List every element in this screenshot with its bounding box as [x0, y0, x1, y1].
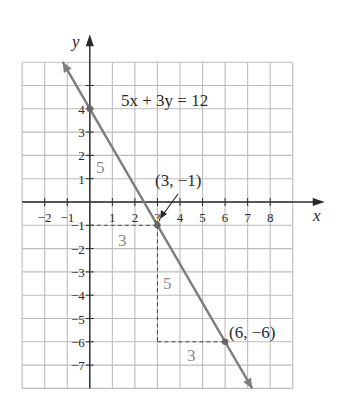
x-tick-label: 5 [199, 210, 206, 225]
rise-label-1: 5 [96, 158, 105, 177]
equation-label: 5x + 3y = 12 [121, 91, 208, 110]
y-tick-label: −6 [71, 335, 85, 350]
y-tick-label: 4 [78, 102, 85, 117]
x-tick-label: 7 [244, 210, 251, 225]
run-label-2: 3 [187, 346, 196, 365]
y-axis-arrow-icon [86, 34, 94, 46]
x-tick-label: 3 [154, 210, 161, 225]
x-tick-label: 1 [109, 210, 116, 225]
data-point [87, 106, 93, 112]
x-axis-arrow-icon [313, 198, 325, 206]
x-tick-label: 2 [132, 210, 139, 225]
y-tick-label: −2 [71, 242, 85, 257]
run-label-1: 3 [118, 231, 127, 250]
y-tick-label: −1 [71, 218, 85, 233]
y-tick-label: 1 [78, 172, 85, 187]
point-label-3-neg1: (3, −1) [155, 171, 201, 190]
x-tick-label: 6 [222, 210, 229, 225]
y-tick-label: −3 [71, 265, 85, 280]
y-tick-label: −7 [71, 358, 85, 373]
rise-label-2: 5 [163, 274, 172, 293]
y-tick-label: 2 [78, 148, 85, 163]
x-axis-label: x [312, 206, 321, 225]
y-axis-label: y [70, 32, 80, 51]
x-tick-label: −2 [38, 210, 52, 225]
arrow-pointer-icon [160, 194, 178, 219]
coordinate-plane-chart: −2−1123456784321−1−2−3−4−5−6−7 y x 5x + … [0, 0, 345, 403]
point-label-6-neg6: (6, −6) [229, 323, 275, 342]
x-tick-label: 8 [267, 210, 274, 225]
y-tick-label: 3 [78, 125, 85, 140]
y-tick-label: −4 [71, 288, 85, 303]
x-tick-label: 4 [177, 210, 184, 225]
y-tick-label: −5 [71, 312, 85, 327]
data-point [222, 339, 228, 345]
